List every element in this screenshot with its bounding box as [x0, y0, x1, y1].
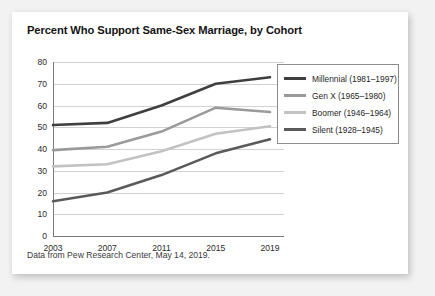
chart-card: Percent Who Support Same-Sex Marriage, b… [12, 12, 408, 274]
series-line [53, 77, 270, 125]
legend-item[interactable]: Gen X (1965–1980) [278, 87, 398, 104]
legend-item[interactable]: Boomer (1946–1964) [278, 104, 398, 121]
legend-item-label: Millennial (1981–1997) [312, 74, 397, 84]
legend-swatch-icon [284, 77, 306, 80]
chart-legend: Millennial (1981–1997)Gen X (1965–1980)B… [277, 64, 399, 144]
legend-item-label: Silent (1928–1945) [312, 125, 383, 135]
source-footnote: Data from Pew Research Center, May 14, 2… [27, 250, 210, 260]
legend-swatch-icon [284, 128, 306, 131]
legend-item[interactable]: Millennial (1981–1997) [278, 70, 398, 87]
legend-item[interactable]: Silent (1928–1945) [278, 121, 398, 138]
legend-swatch-icon [284, 94, 306, 97]
legend-item-label: Boomer (1946–1964) [312, 108, 391, 118]
series-line [53, 108, 270, 150]
legend-swatch-icon [284, 111, 306, 114]
legend-item-label: Gen X (1965–1980) [312, 91, 386, 101]
